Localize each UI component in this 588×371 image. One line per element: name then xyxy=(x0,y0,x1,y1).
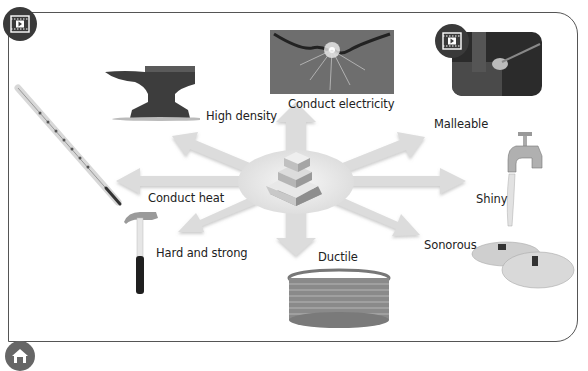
cymbals-image xyxy=(470,232,578,292)
thermometer-image xyxy=(10,80,125,210)
film-play-icon xyxy=(442,32,462,50)
label-sonorous: Sonorous xyxy=(424,238,477,252)
film-play-icon xyxy=(10,15,30,33)
electric-sparks-image xyxy=(270,30,394,94)
label-conduct-heat: Conduct heat xyxy=(148,191,224,205)
label-conduct-electricity: Conduct electricity xyxy=(288,97,394,111)
label-high-density: High density xyxy=(206,109,277,123)
home-button[interactable] xyxy=(5,341,35,371)
label-shiny: Shiny xyxy=(476,192,507,206)
label-malleable: Malleable xyxy=(434,117,488,131)
label-ductile: Ductile xyxy=(318,250,358,264)
home-icon xyxy=(11,348,29,364)
label-hard-and-strong: Hard and strong xyxy=(156,246,248,260)
malleable-video-button[interactable] xyxy=(435,24,469,58)
wire-coil-image xyxy=(284,266,394,332)
water-tap-image xyxy=(502,128,558,228)
play-video-button[interactable] xyxy=(3,7,37,41)
